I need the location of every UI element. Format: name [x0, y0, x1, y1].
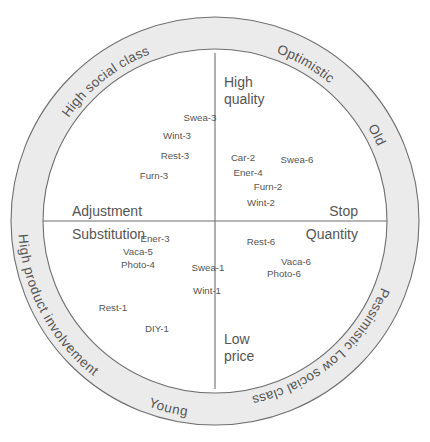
- pole-top-line1: High: [224, 74, 253, 90]
- pole-right-lower: Quantity: [306, 226, 358, 242]
- data-point-label: Photo-4: [121, 259, 156, 270]
- pole-bottom-line1: Low: [224, 331, 251, 347]
- data-point-label: Rest-3: [161, 150, 190, 161]
- data-point-label: Car-2: [231, 152, 255, 163]
- data-point-label: Wint-3: [163, 130, 191, 141]
- perceptual-map: OptimisticOldHigh social classPessimisti…: [0, 0, 430, 442]
- data-point-label: Ener-3: [140, 233, 169, 244]
- pole-left-lower: Substitution: [72, 226, 145, 242]
- data-point-label: Swea-6: [281, 154, 314, 165]
- data-point-label: Vaca-5: [123, 246, 153, 257]
- data-point-label: Rest-6: [247, 236, 276, 247]
- data-point-label: Ener-4: [233, 167, 263, 178]
- pole-right-upper: Stop: [329, 203, 358, 219]
- data-point-label: DIY-1: [145, 323, 169, 334]
- data-point-label: Rest-1: [99, 302, 128, 313]
- data-point-label: Wint-2: [247, 197, 275, 208]
- data-point-label: Furn-2: [254, 181, 283, 192]
- data-point-label: Wint-1: [193, 285, 221, 296]
- data-point-label: Swea-3: [184, 112, 217, 123]
- pole-left-upper: Adjustment: [72, 203, 142, 219]
- data-point-label: Swea-1: [192, 262, 225, 273]
- pole-top-line2: quality: [224, 91, 264, 107]
- pole-bottom-line2: price: [224, 348, 255, 364]
- data-point-label: Vaca-6: [281, 256, 311, 267]
- data-point-label: Furn-3: [140, 170, 169, 181]
- data-point-label: Photo-6: [267, 268, 301, 279]
